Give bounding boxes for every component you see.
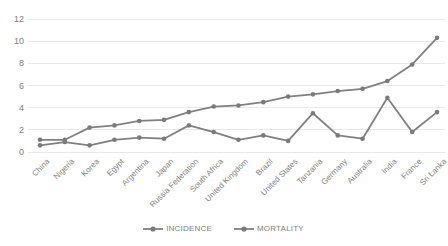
legend-marker-icon (143, 225, 163, 233)
y-axis-tick-label: 12 (0, 14, 24, 24)
data-point (63, 140, 68, 145)
y-axis-tick-label: 8 (0, 58, 24, 68)
data-point (360, 87, 365, 92)
data-point (137, 119, 142, 124)
data-point (410, 62, 415, 67)
data-point (162, 118, 167, 123)
data-point (162, 136, 167, 141)
data-point (360, 136, 365, 141)
legend-item-mortality[interactable]: MORTALITY (234, 224, 304, 233)
data-point (112, 138, 117, 143)
chart-legend: INCIDENCEMORTALITY (0, 224, 447, 233)
legend-item-label: INCIDENCE (166, 224, 212, 233)
data-point (236, 138, 241, 143)
series-incidence (38, 36, 440, 143)
data-point (236, 103, 241, 108)
data-point (435, 110, 440, 115)
data-point (211, 104, 216, 109)
data-point (385, 95, 390, 100)
data-point (187, 110, 192, 115)
data-point (211, 130, 216, 135)
data-point (261, 100, 266, 105)
data-point (87, 143, 92, 148)
data-point (311, 92, 316, 97)
series-layer (38, 36, 440, 148)
data-point (385, 79, 390, 84)
series-line (40, 38, 437, 140)
data-point (187, 123, 192, 128)
gridlines (28, 19, 445, 152)
y-axis-tick-label: 4 (0, 103, 24, 113)
y-axis-tick-label: 10 (0, 36, 24, 46)
data-point (286, 139, 291, 144)
legend-item-label: MORTALITY (257, 224, 304, 233)
data-point (87, 125, 92, 130)
data-point (286, 94, 291, 99)
data-point (112, 123, 117, 128)
y-axis-tick-label: 6 (0, 81, 24, 91)
data-point (435, 36, 440, 41)
y-axis-tick-label: 2 (0, 125, 24, 135)
data-point (38, 143, 43, 148)
data-point (311, 111, 316, 116)
data-point (137, 135, 142, 140)
data-point (261, 133, 266, 138)
legend-item-incidence[interactable]: INCIDENCE (143, 224, 212, 233)
legend-marker-icon (234, 225, 254, 233)
data-point (38, 138, 43, 143)
y-axis-tick-label: 0 (0, 147, 24, 157)
data-point (410, 130, 415, 135)
data-point (335, 133, 340, 138)
data-point (335, 89, 340, 94)
